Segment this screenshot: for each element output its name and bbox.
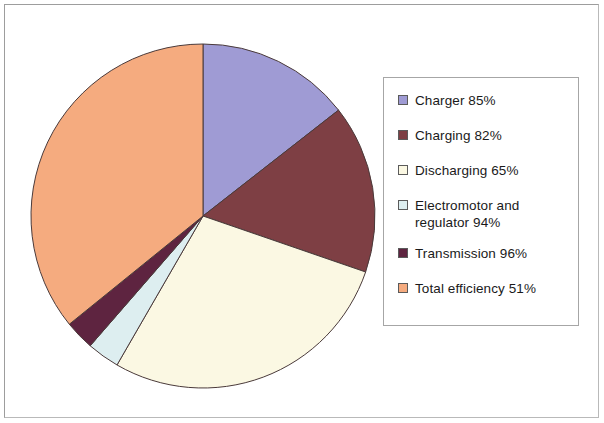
legend-item-label: Electromotor and regulator 94% <box>415 197 519 231</box>
plot-area: Charger 85%Charging 82%Discharging 65%El… <box>0 0 604 423</box>
pie-chart <box>20 28 390 398</box>
chart-screenshot: Charger 85%Charging 82%Discharging 65%El… <box>0 0 604 423</box>
legend-item[interactable]: Total efficiency 51% <box>398 280 570 297</box>
legend-item-label: Transmission 96% <box>415 245 527 262</box>
legend-swatch-charging <box>398 130 408 140</box>
legend-swatch-total-efficiency <box>398 283 408 293</box>
legend-item[interactable]: Discharging 65% <box>398 162 570 179</box>
legend-swatch-discharging <box>398 165 408 175</box>
legend-box: Charger 85%Charging 82%Discharging 65%El… <box>383 77 579 326</box>
legend-item-label: Discharging 65% <box>415 162 519 179</box>
legend-item[interactable]: Charger 85% <box>398 92 570 109</box>
legend-item[interactable]: Charging 82% <box>398 127 570 144</box>
legend-item[interactable]: Transmission 96% <box>398 245 570 262</box>
legend-item-label: Charging 82% <box>415 127 502 144</box>
pie-slice-group <box>31 44 375 388</box>
legend-item[interactable]: Electromotor and regulator 94% <box>398 197 570 231</box>
legend-item-label: Charger 85% <box>415 92 496 109</box>
legend-swatch-electromotor <box>398 200 408 210</box>
legend-item-label: Total efficiency 51% <box>415 280 536 297</box>
legend-swatch-transmission <box>398 248 408 258</box>
legend-swatch-charger <box>398 95 408 105</box>
legend-list: Charger 85%Charging 82%Discharging 65%El… <box>384 78 578 325</box>
